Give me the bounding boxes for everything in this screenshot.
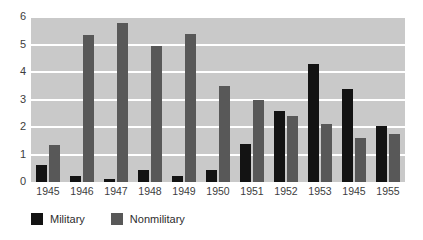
bar-group bbox=[31, 17, 65, 182]
bar-group bbox=[99, 17, 133, 182]
bar-nonmilitary-1952[interactable] bbox=[287, 116, 298, 182]
bar-military-1946[interactable] bbox=[70, 176, 81, 182]
bar-military-1953[interactable] bbox=[308, 64, 319, 182]
bar-group bbox=[201, 17, 235, 182]
bar-military-1950[interactable] bbox=[206, 170, 217, 182]
legend-label-nonmilitary: Nonmilitary bbox=[130, 213, 185, 225]
x-axis-tick-1945: 1945 bbox=[337, 185, 371, 198]
bar-military-1945[interactable] bbox=[36, 165, 47, 182]
legend-label-military: Military bbox=[50, 213, 85, 225]
x-axis-tick-1951: 1951 bbox=[235, 185, 269, 198]
bar-military-1952[interactable] bbox=[274, 111, 285, 183]
bar-nonmilitary-1955[interactable] bbox=[389, 134, 400, 182]
y-axis: 0123456 bbox=[0, 17, 26, 182]
bar-chart: 0123456 19451946194719481949195019511952… bbox=[0, 0, 423, 240]
bar-military-1949[interactable] bbox=[172, 176, 183, 182]
bar-military-1948[interactable] bbox=[138, 170, 149, 182]
bar-military-1955[interactable] bbox=[376, 126, 387, 182]
x-axis-tick-1953: 1953 bbox=[303, 185, 337, 198]
bar-nonmilitary-1945[interactable] bbox=[355, 138, 366, 182]
y-axis-tick-1: 1 bbox=[0, 149, 26, 160]
bar-nonmilitary-1950[interactable] bbox=[219, 86, 230, 182]
bars-layer bbox=[31, 17, 405, 182]
legend-swatch-nonmilitary bbox=[111, 213, 123, 225]
bar-group bbox=[371, 17, 405, 182]
y-axis-tick-2: 2 bbox=[0, 121, 26, 132]
y-axis-tick-4: 4 bbox=[0, 66, 26, 77]
bar-group bbox=[269, 17, 303, 182]
chart-legend: MilitaryNonmilitary bbox=[31, 211, 211, 227]
legend-item-military[interactable]: Military bbox=[31, 213, 85, 225]
bar-nonmilitary-1946[interactable] bbox=[83, 35, 94, 182]
x-axis-tick-1949: 1949 bbox=[167, 185, 201, 198]
bar-nonmilitary-1948[interactable] bbox=[151, 46, 162, 182]
bar-nonmilitary-1945[interactable] bbox=[49, 145, 60, 182]
bar-group bbox=[133, 17, 167, 182]
y-axis-tick-6: 6 bbox=[0, 11, 26, 22]
legend-swatch-military bbox=[31, 213, 43, 225]
legend-item-nonmilitary[interactable]: Nonmilitary bbox=[111, 213, 185, 225]
bar-group bbox=[167, 17, 201, 182]
bar-nonmilitary-1947[interactable] bbox=[117, 23, 128, 183]
bar-group bbox=[303, 17, 337, 182]
x-axis-tick-1952: 1952 bbox=[269, 185, 303, 198]
bar-nonmilitary-1953[interactable] bbox=[321, 124, 332, 182]
x-axis-tick-1948: 1948 bbox=[133, 185, 167, 198]
bar-nonmilitary-1949[interactable] bbox=[185, 34, 196, 183]
bar-military-1945[interactable] bbox=[342, 89, 353, 183]
x-axis-tick-1946: 1946 bbox=[65, 185, 99, 198]
x-axis-tick-1945: 1945 bbox=[31, 185, 65, 198]
bar-military-1951[interactable] bbox=[240, 144, 251, 183]
bar-group bbox=[65, 17, 99, 182]
x-axis-tick-1947: 1947 bbox=[99, 185, 133, 198]
x-axis-tick-1950: 1950 bbox=[201, 185, 235, 198]
bar-group bbox=[337, 17, 371, 182]
bar-group bbox=[235, 17, 269, 182]
bar-military-1947[interactable] bbox=[104, 179, 115, 182]
y-axis-tick-0: 0 bbox=[0, 176, 26, 187]
y-axis-tick-5: 5 bbox=[0, 39, 26, 50]
x-axis: 1945194619471948194919501951195219531945… bbox=[31, 185, 405, 201]
x-axis-tick-1955: 1955 bbox=[371, 185, 405, 198]
y-axis-tick-3: 3 bbox=[0, 94, 26, 105]
bar-nonmilitary-1951[interactable] bbox=[253, 100, 264, 183]
